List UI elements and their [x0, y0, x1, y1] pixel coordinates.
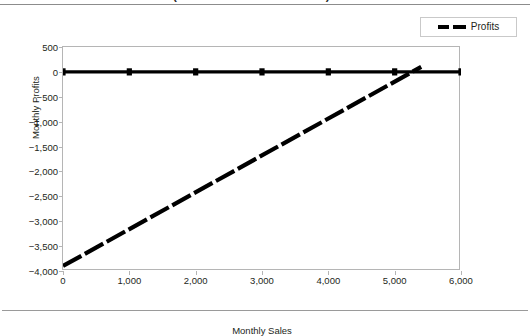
y-tick-label: 0	[53, 66, 58, 77]
series-marker	[259, 68, 264, 75]
x-tick-label: 5,000	[383, 275, 407, 286]
series-line-profits	[63, 67, 421, 266]
y-tick-label: −1,000	[29, 116, 58, 127]
y-tick-mark	[59, 221, 63, 222]
x-tick-label: 2,000	[184, 275, 208, 286]
running-title-clipped: FIGURE 7-5 THE BREAKEVEN (IN THOUSANDS O…	[0, 0, 530, 3]
series-marker	[392, 68, 397, 75]
y-tick-mark	[59, 147, 63, 148]
y-tick-mark	[59, 72, 63, 73]
legend-item-label: Profits	[471, 22, 499, 32]
x-tick-label: 0	[60, 275, 65, 286]
x-tick-label: 3,000	[250, 275, 274, 286]
x-tick-mark	[129, 271, 130, 275]
x-tick-mark	[262, 271, 263, 275]
y-tick-label: −2,500	[29, 191, 58, 202]
y-tick-mark	[59, 171, 63, 172]
series-marker	[326, 68, 331, 75]
series-plot	[63, 47, 461, 271]
x-tick-mark	[63, 271, 64, 275]
y-tick-label: −4,000	[29, 266, 58, 277]
series-marker	[193, 68, 198, 75]
x-axis-label: Monthly Sales	[63, 325, 461, 336]
y-tick-label: −3,500	[29, 241, 58, 252]
series-marker	[458, 68, 461, 75]
x-tick-label: 1,000	[117, 275, 141, 286]
y-tick-mark	[59, 196, 63, 197]
x-tick-mark	[196, 271, 197, 275]
y-tick-label: −3,000	[29, 216, 58, 227]
series-marker	[63, 68, 66, 75]
top-rule	[0, 4, 530, 5]
x-tick-label: 4,000	[316, 275, 340, 286]
x-tick-mark	[461, 271, 462, 275]
x-tick-mark	[395, 271, 396, 275]
y-tick-label: −500	[37, 91, 58, 102]
series-marker	[127, 68, 132, 75]
bottom-rule	[2, 310, 528, 311]
plot-area: Monthly Profits Monthly Sales 5000−500−1…	[62, 46, 460, 270]
y-tick-label: −1,500	[29, 141, 58, 152]
x-tick-mark	[328, 271, 329, 275]
y-tick-mark	[59, 47, 63, 48]
y-tick-mark	[59, 122, 63, 123]
y-tick-mark	[59, 246, 63, 247]
plot-inner: Monthly Profits Monthly Sales 5000−500−1…	[63, 47, 459, 269]
y-axis-label: Monthly Profits	[30, 76, 41, 139]
x-tick-label: 6,000	[449, 275, 473, 286]
legend-line-icon	[438, 25, 468, 29]
running-title-text: FIGURE 7-5 THE BREAKEVEN (IN THOUSANDS O…	[0, 0, 530, 3]
y-tick-mark	[59, 97, 63, 98]
y-tick-label: −2,000	[29, 166, 58, 177]
y-tick-label: 500	[42, 42, 58, 53]
chart-legend: Profits	[420, 17, 517, 37]
